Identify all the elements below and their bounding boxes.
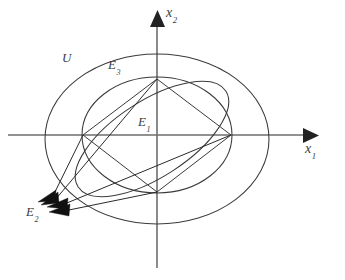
- vector-from-top-line: [55, 79, 157, 200]
- label-set-e3: E3: [108, 58, 120, 75]
- x2-axis-label: x2: [166, 6, 177, 22]
- vector-from-left-arrowhead-icon: [38, 190, 56, 202]
- label-set-U: U: [62, 51, 71, 68]
- axes-group: [8, 10, 319, 268]
- x1-axis-label: x1: [305, 142, 316, 158]
- label-set-e2: E2: [26, 205, 38, 222]
- label-set-e1: E1: [138, 115, 150, 132]
- vectors-group: [38, 79, 231, 216]
- ellipse-diagram-svg: [0, 0, 345, 280]
- vector-from-bottom-line: [64, 192, 157, 211]
- x2-axis-arrowhead-icon: [150, 10, 165, 27]
- figure-container: x1 x2 U E3 E1 E2: [0, 0, 345, 280]
- vector-from-left-line: [52, 135, 83, 198]
